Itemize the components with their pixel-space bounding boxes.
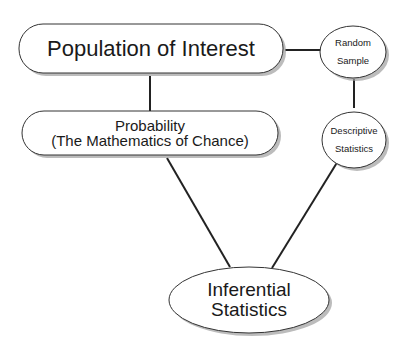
- node-inferential-line1: Inferential: [207, 280, 290, 300]
- node-random-sample-line2: Sample: [337, 52, 369, 70]
- node-random-sample-line1: Random: [335, 34, 371, 52]
- edge-descriptive-inferential: [272, 161, 338, 268]
- node-descriptive-line1: Descriptive: [331, 122, 378, 140]
- node-random-sample: Random Sample: [320, 26, 386, 78]
- node-inferential-line2: Statistics: [211, 300, 287, 320]
- node-population-label: Population of Interest: [47, 37, 255, 60]
- node-descriptive-line2: Statistics: [335, 140, 373, 158]
- node-descriptive: Descriptive Statistics: [322, 112, 386, 168]
- node-probability-line2: (The Mathematics of Chance): [51, 133, 249, 148]
- node-probability-line1: Probability: [115, 118, 185, 133]
- node-inferential: Inferential Statistics: [169, 267, 329, 333]
- edge-probability-inferential: [167, 158, 230, 267]
- node-population: Population of Interest: [19, 24, 283, 73]
- node-probability: Probability (The Mathematics of Chance): [22, 111, 278, 155]
